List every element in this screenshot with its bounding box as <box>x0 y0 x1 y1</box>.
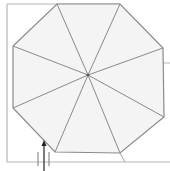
octagon-shape <box>13 4 164 153</box>
octagon-diagram <box>0 0 170 171</box>
diagram-svg <box>0 0 170 171</box>
center-point <box>87 74 90 77</box>
